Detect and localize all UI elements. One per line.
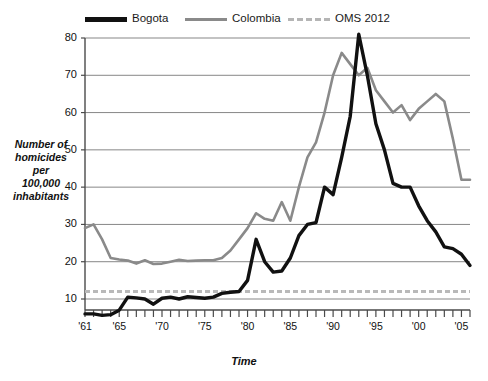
chart-canvas [0, 0, 488, 381]
homicide-rate-line-chart: Bogota Colombia OMS 2012 Number of homic… [0, 0, 488, 381]
axis-lines [85, 38, 470, 310]
x-axis-ticks [85, 310, 470, 317]
series-line-bogota [85, 34, 470, 315]
series-line-colombia [85, 53, 470, 264]
